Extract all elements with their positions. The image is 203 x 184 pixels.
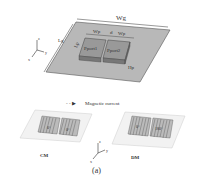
svg-text:y: y bbox=[45, 50, 47, 55]
svg-text:180°: 180° bbox=[155, 126, 163, 131]
axes-bottom bbox=[93, 143, 105, 159]
port1-label: Pport1 bbox=[84, 46, 98, 51]
legend-text: Magnetic current bbox=[85, 101, 120, 106]
legend-symbol: - - ▶ bbox=[66, 101, 76, 106]
caption: (a) bbox=[92, 166, 101, 175]
lg-label: Lg bbox=[58, 38, 64, 43]
svg-text:z: z bbox=[99, 139, 101, 144]
wp-left-label: Wp bbox=[93, 29, 101, 34]
wg-label: Wg bbox=[116, 14, 127, 22]
port2-label: Pport2 bbox=[107, 48, 121, 53]
svg-text:z: z bbox=[38, 36, 40, 41]
dm-label: DM bbox=[131, 155, 140, 160]
svg-text:0°: 0° bbox=[136, 124, 140, 129]
hp-label: Hp bbox=[128, 65, 135, 70]
svg-text:0°: 0° bbox=[66, 127, 70, 132]
svg-text:y: y bbox=[106, 148, 108, 153]
antenna-diagram: Wg Lg Pport1 Pport2 Wp d Wp Lp Hp z y x … bbox=[0, 0, 203, 184]
svg-text:x: x bbox=[90, 159, 92, 164]
axes-top bbox=[32, 40, 44, 57]
svg-text:0°: 0° bbox=[47, 125, 51, 130]
wp-right-label: Wp bbox=[118, 31, 126, 36]
cm-label: CM bbox=[40, 153, 49, 158]
svg-text:x: x bbox=[28, 57, 30, 62]
